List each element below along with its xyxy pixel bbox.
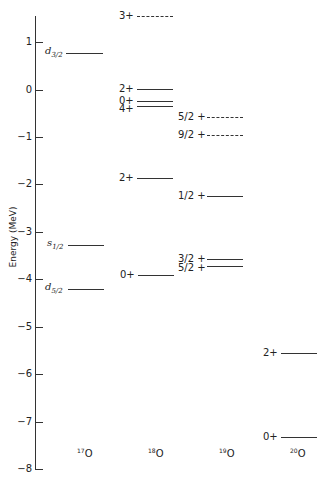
level-label-19o-92plus: 9/2 + [178,130,206,140]
tick-1 [35,42,43,43]
level-label-18o-2plus-a: 2+ [119,84,134,94]
level-label-18o-2plus-b: 2+ [119,173,134,183]
tick-m2 [35,184,43,185]
level-line-d52 [68,289,104,290]
level-label-19o-52plus-a: 5/2 + [178,112,206,122]
level-label-d52: d5/2 [45,282,63,296]
nucleus-label-18o: 18O [148,447,164,459]
tick-label: −8 [17,464,32,474]
level-label-18o-4plus: 4+ [119,104,134,114]
tick-label: −2 [17,179,32,189]
level-line-18o-2plus-b [137,178,173,179]
nucleus-label-20o: 20O [290,447,306,459]
level-label-18o-0plus-b: 0+ [120,270,135,280]
tick-label: −4 [17,274,32,284]
tick-m4 [35,279,43,280]
tick-label: −5 [17,322,32,332]
level-line-18o-3plus [137,16,173,17]
level-line-19o-12plus [207,196,243,197]
level-line-19o-92plus [207,135,243,136]
level-line-19o-52plus-b [207,266,243,267]
tick-m6 [35,374,43,375]
level-line-20o-0plus [281,437,317,438]
level-line-18o-4plus [137,106,173,107]
level-label-20o-2plus: 2+ [263,348,278,358]
tick-0 [35,90,43,91]
level-line-s12 [68,245,104,246]
level-line-19o-32plus [207,259,243,260]
tick-m3 [35,232,43,233]
level-line-20o-2plus [281,353,317,354]
energy-axis [35,16,36,470]
tick-m8 [35,469,43,470]
tick-label: 0 [26,85,32,95]
nucleus-label-17o: 17O [77,447,93,459]
tick-label: 1 [26,37,32,47]
level-line-18o-2plus-a [137,89,173,90]
level-line-19o-52plus-a [207,117,243,118]
level-line-18o-0plus-a [137,101,173,102]
level-label-19o-12plus: 1/2 + [178,191,206,201]
tick-label: −7 [17,417,32,427]
tick-label: −3 [17,227,32,237]
tick-label: −1 [17,132,32,142]
level-label-19o-52plus-b: 5/2 + [178,263,206,273]
level-line-d32 [66,53,103,54]
tick-label: −6 [17,369,32,379]
nucleus-label-19o: 19O [219,447,235,459]
level-line-18o-0plus-b [138,275,174,276]
level-label-18o-3plus: 3+ [119,11,134,21]
tick-m1 [35,137,43,138]
tick-m5 [35,327,43,328]
level-label-20o-0plus: 0+ [263,432,278,442]
level-label-s12: s1/2 [47,238,63,252]
y-axis-label: Energy (MeV) [8,202,18,272]
level-label-d32: d3/2 [45,46,63,60]
tick-m7 [35,422,43,423]
